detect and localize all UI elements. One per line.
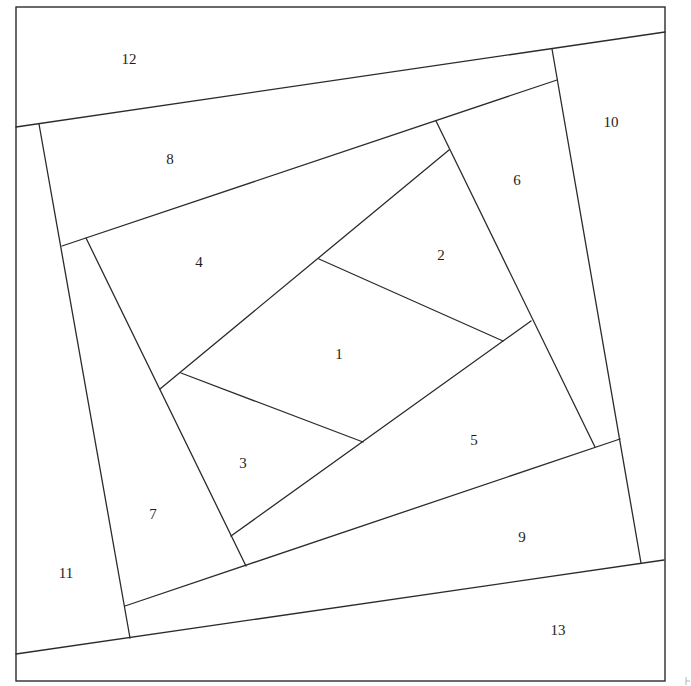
piece-label-8: 8 [166,151,174,167]
piece-label-12: 12 [122,51,137,67]
diagram-background [0,0,691,686]
piece-label-11: 11 [59,565,73,581]
piece-label-2: 2 [437,247,445,263]
piece-label-5: 5 [470,432,478,448]
paper-piecing-diagram: 12345678910111213 [0,0,691,686]
piece-label-1: 1 [335,346,343,362]
piece-label-9: 9 [518,529,526,545]
piece-label-13: 13 [551,622,566,638]
piece-label-3: 3 [239,455,247,471]
piece-label-10: 10 [604,114,619,130]
piece-label-4: 4 [195,254,203,270]
piece-label-7: 7 [149,506,157,522]
piece-label-6: 6 [513,172,521,188]
